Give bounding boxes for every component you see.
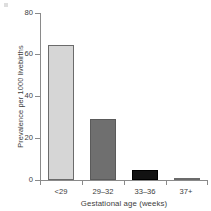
bar-33-36[interactable] <box>132 170 158 180</box>
bar-37plus[interactable] <box>174 178 200 180</box>
plot-area <box>40 13 208 180</box>
y-tick-label-60: 60 <box>17 50 33 58</box>
y-tick-label-0: 0 <box>17 176 33 184</box>
x-tick-2 <box>124 181 125 185</box>
x-tick-4 <box>207 181 208 185</box>
x-tick-0 <box>40 181 41 185</box>
x-tick-3 <box>166 181 167 185</box>
corner-tick-mark <box>4 3 8 7</box>
y-tick-label-80: 80 <box>17 9 33 17</box>
bar-lt29[interactable] <box>48 45 74 180</box>
y-tick-label-20: 20 <box>17 134 33 142</box>
x-tick-label-lt29: <29 <box>38 187 84 196</box>
bar-29-32[interactable] <box>90 119 116 180</box>
bar-chart-figure: Prevalence per 1000 livebirths 80 60 40 … <box>0 0 211 211</box>
y-tick-label-40: 40 <box>17 92 33 100</box>
x-tick-label-33-36: 33–36 <box>122 187 168 196</box>
x-tick-1 <box>82 181 83 185</box>
x-axis-title: Gestational age (weeks) <box>40 199 208 208</box>
x-tick-label-29-32: 29–32 <box>80 187 126 196</box>
x-tick-label-37plus: 37+ <box>163 187 209 196</box>
